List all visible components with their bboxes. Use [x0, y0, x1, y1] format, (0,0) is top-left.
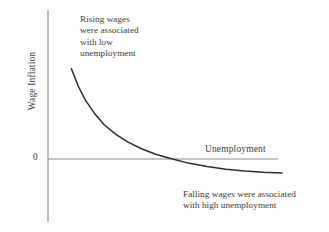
- zero-tick-label: 0: [33, 152, 38, 162]
- phillips-curve-figure: Wage Inflation Unemployment 0 Rising wag…: [0, 0, 329, 232]
- annotation-lower-right: Falling wages were associated with high …: [183, 189, 329, 212]
- x-axis-label: Unemployment: [205, 144, 266, 154]
- phillips-curve-line: [71, 69, 282, 173]
- y-axis-label: Wage Inflation: [27, 21, 37, 141]
- annotation-upper-left: Rising wages were associated with low un…: [80, 14, 176, 60]
